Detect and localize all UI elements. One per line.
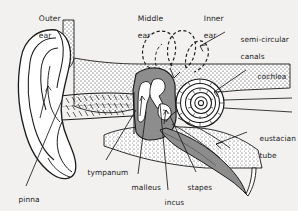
label-tympanum: tympanum xyxy=(78,160,128,186)
label-pinna-line1: pinna xyxy=(19,195,40,204)
heading-outer-ear-line1: Outer xyxy=(39,14,61,23)
heading-inner-ear: Inner ear xyxy=(194,6,224,49)
diagram-canvas: Outer ear Middle ear Inner ear semi-circ… xyxy=(0,0,298,211)
label-eustacian-tube-line1: eustacian xyxy=(260,134,296,143)
label-pinna: pinna xyxy=(9,187,40,211)
label-stapes: stapes xyxy=(178,175,212,201)
heading-outer-ear: Outer ear xyxy=(29,6,61,49)
heading-inner-ear-line2: ear xyxy=(204,31,217,40)
label-stapes-line1: stapes xyxy=(188,183,213,192)
heading-middle-ear-line2: ear xyxy=(138,31,151,40)
heading-outer-ear-line2: ear xyxy=(39,31,52,40)
heading-inner-ear-line1: Inner xyxy=(204,14,224,23)
label-eustacian-tube: eustacian tube xyxy=(250,126,296,169)
heading-middle-ear: Middle ear xyxy=(128,6,163,49)
label-eustacian-tube-line2: tube xyxy=(260,151,277,160)
label-semicircular-canals-line2: canals xyxy=(241,52,265,61)
label-cochlea: cochlea xyxy=(248,64,286,90)
label-cochlea-line1: cochlea xyxy=(258,72,287,81)
label-semicircular-canals-line1: semi-circular xyxy=(241,35,289,44)
heading-middle-ear-line1: Middle xyxy=(138,14,163,23)
pinna-outline xyxy=(19,30,76,179)
